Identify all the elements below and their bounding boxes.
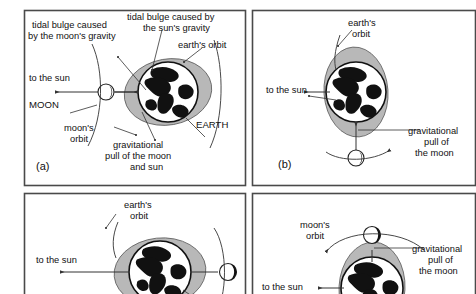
label-tidal-bulge-sun-a: tidal bulge caused by	[127, 12, 215, 22]
label-earths-orbit-b-2: orbit	[352, 29, 371, 39]
label-moons-orbit-a-2: orbit	[70, 134, 89, 144]
label-to-the-sun-d: to the sun	[262, 282, 303, 292]
label-grav-pull-d: gravitational	[412, 244, 462, 254]
tidal-bulge-figure: tidal bulge caused by the moon's gravity…	[0, 0, 476, 294]
label-earth-a: EARTH	[196, 119, 228, 130]
label-earths-orbit-c: earth's	[124, 200, 152, 210]
label-moons-orbit-d-2: orbit	[306, 231, 325, 241]
label-earths-orbit-c-2: orbit	[130, 211, 149, 221]
label-tidal-bulge-moon-a: tidal bulge caused	[32, 20, 107, 30]
label-grav-pull-a-3: and sun	[130, 162, 163, 172]
label-earths-orbit-a: earth's orbit	[178, 40, 227, 50]
label-moons-orbit-a: moon's	[64, 123, 94, 133]
label-grav-pull-b-2: pull of	[424, 137, 449, 147]
label-tidal-bulge-sun-a-2: the sun's gravity	[143, 23, 210, 33]
moon-c	[220, 264, 237, 281]
moon-d	[364, 227, 381, 244]
label-grav-pull-b-3: the moon	[415, 148, 454, 158]
label-to-the-sun-a: to the sun	[29, 73, 70, 83]
label-earths-orbit-b: earth's	[348, 18, 376, 28]
label-tidal-bulge-moon-a-2: by the moon's gravity	[28, 31, 116, 41]
label-to-the-sun-b: to the sun	[266, 85, 307, 95]
figure-background	[0, 0, 476, 294]
label-grav-pull-d-2: pull of	[428, 255, 453, 265]
label-grav-pull-b: gravitational	[408, 126, 458, 136]
label-moons-orbit-d: moon's	[300, 220, 330, 230]
label-moon-a: MOON	[29, 99, 59, 110]
label-grav-pull-a: gravitational	[113, 140, 163, 150]
panel-letter-b: (b)	[278, 158, 291, 170]
label-grav-pull-d-3: the moon	[419, 266, 458, 276]
label-to-the-sun-c: to the sun	[36, 255, 77, 265]
label-grav-pull-a-2: pull of the moon	[105, 151, 171, 161]
panel-letter-a: (a)	[36, 160, 49, 172]
moon-b	[348, 150, 364, 166]
